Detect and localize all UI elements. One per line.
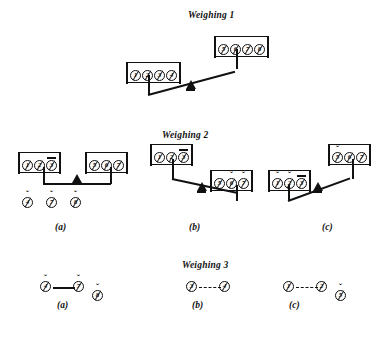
- coin-4: 4: [22, 197, 33, 208]
- coin-number: 5: [339, 292, 343, 299]
- coin-5: 5: [332, 152, 343, 163]
- coin-number: 3: [182, 154, 186, 161]
- w2b-left-coin-2: ˇ2: [166, 147, 177, 163]
- w2a-left-stem: [43, 167, 45, 184]
- w1-right-coin-6: ˇ6: [230, 39, 241, 55]
- w1-left-coin-2: ˇ2: [142, 65, 153, 81]
- coin-1: 1: [272, 178, 283, 189]
- w3b-caption: (b): [192, 300, 203, 310]
- w2b-left-stem: [172, 159, 174, 179]
- coin-1: 1: [130, 70, 141, 81]
- coin-8: 8: [254, 44, 265, 55]
- w2c-fulcrum-base: [313, 191, 322, 193]
- weighing-diagram-figure: Weighing 1 ˇ1ˇ2ˇ3ˇ4 ˇ5ˇ6ˇ7ˇ8 Weighing 2 …: [0, 0, 390, 341]
- coin-number: 7: [77, 283, 81, 290]
- coin-number: 2: [288, 180, 292, 187]
- coin-4: 4: [40, 281, 51, 292]
- coin-number: 4: [170, 72, 174, 79]
- w3c-coin-1: ˇ1: [283, 276, 294, 292]
- coin-1: 1: [154, 152, 165, 163]
- coin-number: 7: [246, 46, 250, 53]
- w3c-caption: (c): [289, 300, 300, 310]
- coin-1: 1: [22, 160, 33, 171]
- w2a-fulcrum-icon: [72, 174, 82, 183]
- w3a-single-coin: ˇ8: [92, 276, 103, 301]
- coin-number: 6: [348, 154, 352, 161]
- coin-number: 5: [336, 154, 340, 161]
- coin-caron-mark: ˇ: [276, 173, 279, 178]
- w1-left-coin-3: ˇ3: [154, 65, 165, 81]
- coin-3: 3: [186, 281, 197, 292]
- coin-number: 1: [134, 72, 138, 79]
- w2a-right-stem: [110, 167, 112, 184]
- coin-number: 2: [38, 162, 42, 169]
- w2b-fulcrum-icon: [197, 182, 207, 191]
- coin-7: 7: [356, 152, 367, 163]
- w2c-fulcrum-icon: [313, 182, 323, 191]
- w3c-pair-coins: ˇ1ˇ2: [283, 276, 327, 292]
- w2a-right-pan: ˇ5ˇ6ˇ7: [87, 152, 126, 173]
- coin-number: 8: [96, 292, 100, 299]
- w2a-conclusion-coin-7: ˇ7: [46, 192, 57, 208]
- w2b-left-coin-1: ˇ1: [154, 147, 165, 163]
- coin-number: 8: [74, 199, 78, 206]
- w2a-left-pan: ˇ1ˇ23: [20, 152, 59, 173]
- w3c-coin-2: ˇ2: [316, 276, 327, 292]
- coin-number: 3: [50, 162, 54, 169]
- w3c-connector: [296, 287, 318, 288]
- coin-number: 8: [258, 46, 262, 53]
- coin-8: 8: [70, 197, 81, 208]
- w3c-single-coin-5: ˇ5: [335, 285, 346, 301]
- coin-number: 7: [242, 180, 246, 187]
- w2a-right-coin-5: ˇ5: [89, 155, 100, 171]
- coin-number: 1: [26, 162, 30, 169]
- coin-number: 2: [320, 283, 324, 290]
- coin-7: 7: [113, 160, 124, 171]
- w2a-left-coin-3: 3: [46, 155, 57, 171]
- w2b-left-coin-3: 3: [178, 147, 189, 163]
- coin-number: 7: [360, 154, 364, 161]
- w2c-caption: (c): [322, 222, 333, 232]
- w2c-right-coin-7: ˇ7: [356, 147, 367, 163]
- weighing-1-title: Weighing 1: [188, 10, 234, 20]
- w3b-pair-coins: ˇ3ˇ4: [186, 276, 230, 292]
- w2a-conclusion-coin-4: ˇ4: [22, 192, 33, 208]
- w2a-right-coin-7: ˇ7: [113, 155, 124, 171]
- coin-8: 8: [92, 290, 103, 301]
- w2c-left-coin-2: ˇ2: [284, 173, 295, 189]
- coin-number: 6: [230, 180, 234, 187]
- coin-3: 3: [178, 152, 189, 163]
- w1-left-coin-1: ˇ1: [130, 65, 141, 81]
- w3b-coin-4: ˇ4: [219, 276, 230, 292]
- w3c-single-coin: ˇ5: [335, 276, 346, 301]
- w1-left-coin-4: ˇ4: [166, 65, 177, 81]
- w2b-right-coin-7: ˇ7: [238, 173, 249, 189]
- w1-right-coin-8: ˇ8: [254, 39, 265, 55]
- coin-caron-mark: ˇ: [230, 173, 233, 178]
- coin-number: 4: [223, 283, 227, 290]
- w2a-conclusion-coin-8: ˇ8: [70, 192, 81, 208]
- coin-bar-mark: [179, 147, 188, 152]
- coin-number: 3: [300, 180, 304, 187]
- coin-number: 6: [105, 162, 109, 169]
- coin-number: 7: [50, 199, 54, 206]
- coin-7: 7: [238, 178, 249, 189]
- coin-number: 5: [93, 162, 97, 169]
- coin-1: 1: [283, 281, 294, 292]
- w3a-coin-4: ˇ4: [40, 276, 51, 292]
- coin-caron-mark: ˇ: [288, 173, 291, 178]
- coin-5: 5: [335, 290, 346, 301]
- coin-number: 1: [158, 154, 162, 161]
- coin-3: 3: [46, 160, 57, 171]
- coin-3: 3: [296, 178, 307, 189]
- weighing-2-title: Weighing 2: [162, 130, 208, 140]
- w2b-fulcrum-base: [197, 191, 206, 193]
- coin-caron-mark: ˇ: [242, 173, 245, 178]
- coin-number: 2: [170, 154, 174, 161]
- coin-4: 4: [166, 70, 177, 81]
- coin-number: 4: [44, 283, 48, 290]
- w2c-right-coin-5: ˇ5: [332, 147, 343, 163]
- w3b-coin-3: ˇ3: [186, 276, 197, 292]
- w2b-right-coin-5: ˇ5: [214, 173, 225, 189]
- coin-5: 5: [89, 160, 100, 171]
